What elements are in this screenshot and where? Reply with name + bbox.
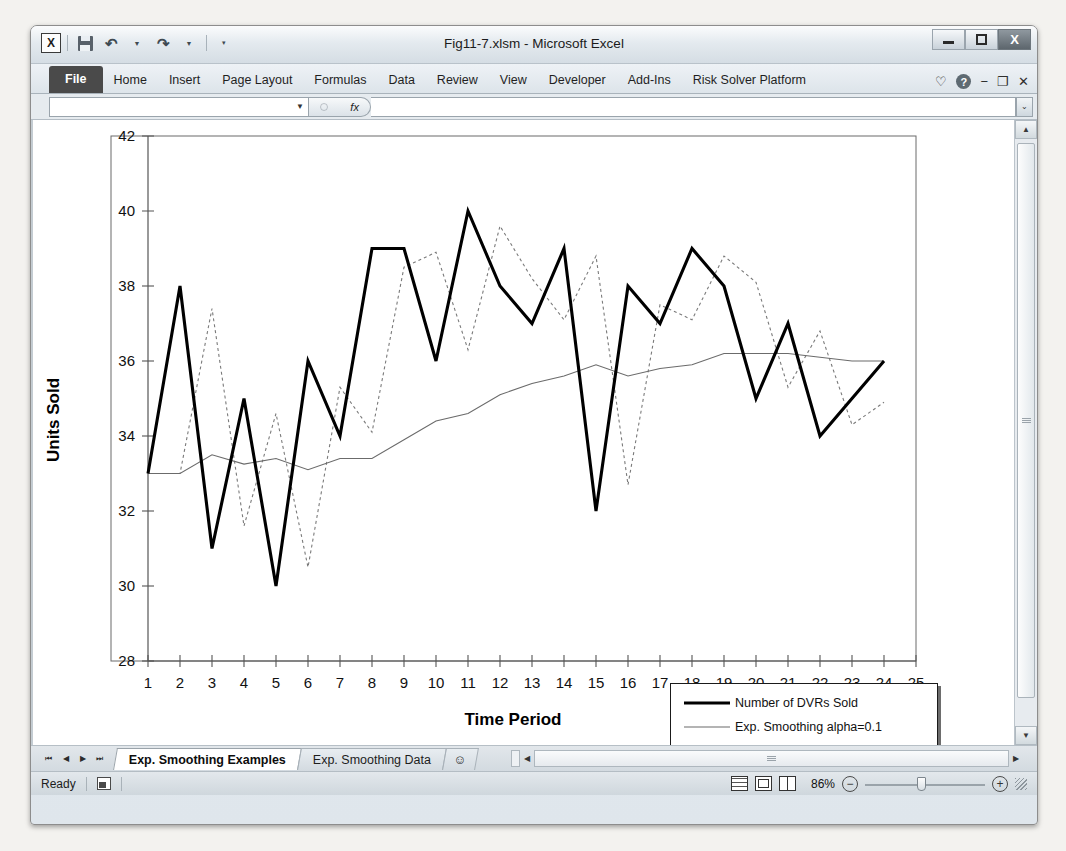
svg-text:3: 3 xyxy=(208,674,216,691)
zoom-slider[interactable] xyxy=(865,776,985,792)
chevron-down-icon[interactable]: ▼ xyxy=(296,102,304,111)
restore-icon xyxy=(976,34,987,45)
tab-review[interactable]: Review xyxy=(426,68,489,93)
sheet-tab-exp-smoothing-data[interactable]: Exp. Smoothing Data xyxy=(297,748,447,770)
horizontal-scrollbar[interactable]: ◀ ▶ xyxy=(511,749,1023,768)
svg-text:36: 36 xyxy=(118,352,135,369)
chart-svg: 2830323436384042 12345678910111213141516… xyxy=(33,120,941,745)
formula-input[interactable] xyxy=(371,97,1016,117)
legend-swatch-thin-solid xyxy=(679,722,735,732)
tab-file[interactable]: File xyxy=(49,66,103,93)
zoom-level-label[interactable]: 86% xyxy=(803,777,835,791)
expand-formula-bar-button[interactable]: ⌄ xyxy=(1016,97,1033,117)
sheet-tab-bar: ⏮ ◀ ▶ ⏭ Exp. Smoothing Examples Exp. Smo… xyxy=(31,745,1037,771)
svg-text:11: 11 xyxy=(460,674,476,691)
tab-formulas[interactable]: Formulas xyxy=(303,68,377,93)
normal-view-icon[interactable] xyxy=(731,776,748,791)
help-icon[interactable]: ? xyxy=(956,74,971,89)
next-sheet-icon[interactable]: ▶ xyxy=(75,750,90,767)
last-sheet-icon[interactable]: ⏭ xyxy=(92,750,107,767)
svg-text:16: 16 xyxy=(620,674,637,691)
svg-text:30: 30 xyxy=(118,577,135,594)
scroll-left-button[interactable]: ◀ xyxy=(520,750,534,767)
insert-function-group[interactable]: fx xyxy=(309,97,371,117)
svg-text:28: 28 xyxy=(118,652,135,669)
sheet-navigation-buttons[interactable]: ⏮ ◀ ▶ ⏭ xyxy=(41,750,107,767)
split-handle[interactable] xyxy=(511,750,520,767)
status-bar: Ready 86% − + xyxy=(31,771,1037,795)
minimize-icon xyxy=(943,41,954,44)
tab-page-layout[interactable]: Page Layout xyxy=(211,68,303,93)
zoom-out-button[interactable]: − xyxy=(842,776,858,792)
cancel-icon[interactable] xyxy=(320,103,328,111)
series-exp-smoothing-alpha-01 xyxy=(148,354,884,474)
tab-data[interactable]: Data xyxy=(377,68,425,93)
scroll-down-button[interactable]: ▼ xyxy=(1015,726,1037,745)
chart-legend[interactable]: Number of DVRs Sold Exp. Smoothing alpha… xyxy=(670,683,938,745)
svg-text:2: 2 xyxy=(176,674,184,691)
zoom-slider-handle[interactable] xyxy=(917,777,926,791)
first-sheet-icon[interactable]: ⏮ xyxy=(41,750,56,767)
new-sheet-icon: ☺ xyxy=(454,752,467,766)
y-axis-title: Units Sold xyxy=(44,378,63,462)
tab-add-ins[interactable]: Add-Ins xyxy=(617,68,682,93)
chart-object[interactable]: 2830323436384042 12345678910111213141516… xyxy=(33,120,1014,745)
svg-text:5: 5 xyxy=(272,674,280,691)
scroll-up-button[interactable]: ▲ xyxy=(1015,120,1037,139)
scanned-page-background: X ↶ ▼ ↷ ▼ ▾ Fig11-7.xlsm - Microsoft Exc… xyxy=(0,0,1066,851)
vertical-scrollbar[interactable]: ▲ ▼ xyxy=(1014,120,1037,745)
series-number-of-dvrs-sold xyxy=(148,211,884,586)
svg-text:17: 17 xyxy=(652,674,669,691)
window-controls: X xyxy=(932,29,1031,50)
tab-view[interactable]: View xyxy=(489,68,538,93)
insert-worksheet-button[interactable]: ☺ xyxy=(442,748,479,770)
ribbon-right-controls: ♡ ? − ❐ ✕ xyxy=(935,74,1029,89)
tab-insert[interactable]: Insert xyxy=(158,68,211,93)
svg-text:13: 13 xyxy=(524,674,541,691)
close-workbook-icon[interactable]: ✕ xyxy=(1018,74,1029,89)
chart-plot-border xyxy=(111,136,916,661)
restore-button[interactable] xyxy=(965,29,998,50)
legend-item-alpha-01: Exp. Smoothing alpha=0.1 xyxy=(679,715,929,739)
legend-label-actual: Number of DVRs Sold xyxy=(735,696,858,710)
svg-text:38: 38 xyxy=(118,277,135,294)
fx-label: fx xyxy=(350,101,359,113)
divider xyxy=(121,777,122,791)
minimize-ribbon-icon[interactable]: − xyxy=(980,74,988,89)
status-bar-right: 86% − + xyxy=(731,772,1027,795)
name-box[interactable]: ▼ xyxy=(49,97,309,117)
grip-icon xyxy=(1022,418,1031,424)
page-break-view-icon[interactable] xyxy=(779,776,796,791)
scroll-right-button[interactable]: ▶ xyxy=(1009,750,1023,767)
close-button[interactable]: X xyxy=(998,29,1031,50)
svg-text:15: 15 xyxy=(588,674,605,691)
heart-icon[interactable]: ♡ xyxy=(935,74,947,89)
record-macro-icon[interactable] xyxy=(97,777,111,790)
page-layout-view-icon[interactable] xyxy=(755,776,772,791)
previous-sheet-icon[interactable]: ◀ xyxy=(58,750,73,767)
series-exp-smoothing-alpha-09 xyxy=(148,226,884,567)
legend-swatch-thick-solid xyxy=(679,698,735,708)
sheet-tab-exp-smoothing-examples[interactable]: Exp. Smoothing Examples xyxy=(113,748,302,770)
excel-application-window: X ↶ ▼ ↷ ▼ ▾ Fig11-7.xlsm - Microsoft Exc… xyxy=(30,25,1038,825)
minimize-button[interactable] xyxy=(932,29,965,50)
svg-text:9: 9 xyxy=(400,674,408,691)
svg-text:4: 4 xyxy=(240,674,248,691)
vertical-scroll-track[interactable] xyxy=(1015,139,1037,726)
tab-developer[interactable]: Developer xyxy=(538,68,617,93)
zoom-in-button[interactable]: + xyxy=(992,776,1008,792)
svg-text:32: 32 xyxy=(118,502,135,519)
restore-window-icon[interactable]: ❐ xyxy=(997,74,1009,89)
horizontal-scroll-track[interactable] xyxy=(534,750,1009,767)
vertical-scroll-thumb[interactable] xyxy=(1017,143,1035,698)
worksheet-area: 2830323436384042 12345678910111213141516… xyxy=(31,120,1037,745)
svg-text:7: 7 xyxy=(336,674,344,691)
tab-home[interactable]: Home xyxy=(103,68,158,93)
svg-text:6: 6 xyxy=(304,674,312,691)
resize-grip-icon[interactable] xyxy=(1015,778,1027,790)
sheet-tab-label: Exp. Smoothing Examples xyxy=(129,752,286,766)
legend-item-actual: Number of DVRs Sold xyxy=(679,691,929,715)
tab-risk-solver-platform[interactable]: Risk Solver Platform xyxy=(682,68,817,93)
sheet-surface: 2830323436384042 12345678910111213141516… xyxy=(31,120,1014,745)
svg-text:34: 34 xyxy=(118,427,135,444)
